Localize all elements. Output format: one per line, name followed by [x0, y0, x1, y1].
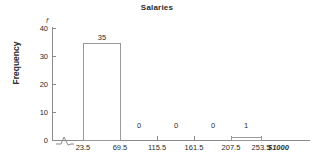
bar-value-label: 35 [82, 33, 122, 42]
x-tick-label: 161.5 [174, 143, 214, 152]
y-tick-label: 30 [26, 52, 48, 61]
y-tick-mark [52, 84, 56, 85]
x-axis-unit-label: $1000 [268, 143, 289, 152]
y-tick-label: 10 [26, 108, 48, 117]
x-tick-label: 115.5 [137, 143, 177, 152]
y-tick-mark [52, 56, 56, 57]
histogram-bar [83, 43, 121, 141]
bar-value-label: 1 [226, 121, 266, 130]
histogram-chart: Salaries f Frequency 0 10 20 30 40 23.5 … [0, 0, 314, 168]
y-tick-label: 0 [26, 136, 48, 145]
x-tick-label: 23.5 [63, 143, 103, 152]
bar-value-label: 0 [156, 121, 196, 130]
x-tick-label: 69.5 [100, 143, 140, 152]
histogram-bar [231, 137, 262, 141]
x-tick-mark [194, 136, 195, 141]
bar-value-label: 0 [119, 121, 159, 130]
chart-title: Salaries [0, 3, 314, 12]
y-axis-title: Frequency [11, 23, 21, 103]
y-tick-mark [52, 28, 56, 29]
y-tick-label: 20 [26, 80, 48, 89]
y-tick-label: 40 [26, 24, 48, 33]
x-tick-mark [157, 136, 158, 141]
y-tick-mark [52, 112, 56, 113]
